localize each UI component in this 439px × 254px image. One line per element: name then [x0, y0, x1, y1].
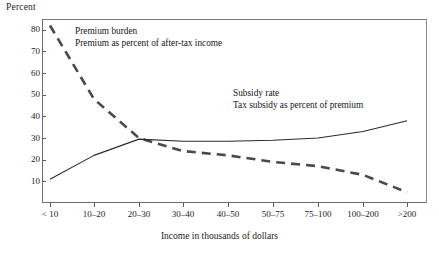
x-axis-tick-label: < 10: [42, 209, 58, 219]
y-axis-tick-mark: [42, 51, 46, 52]
y-axis-tick-label: 60: [16, 69, 40, 78]
x-axis-tick-label: 10–20: [83, 209, 106, 219]
y-axis-tick-mark: [42, 160, 46, 161]
x-axis-tick-label: >200: [398, 209, 417, 219]
x-axis-tick-label: 30–40: [172, 209, 195, 219]
y-axis-tick-mark: [42, 30, 46, 31]
x-axis-tick-mark: [363, 203, 364, 207]
x-axis-tick-mark: [273, 203, 274, 207]
annotation-subsidy-rate-title: Subsidy rate: [233, 88, 363, 100]
y-axis-tick-label: 80: [16, 25, 40, 34]
chart-container: Percent 1020304050607080 < 1010–2020–303…: [0, 0, 439, 254]
x-axis-tick-label: 75–100: [305, 209, 332, 219]
y-axis-tick-mark: [42, 73, 46, 74]
x-axis-tick-mark: [228, 203, 229, 207]
x-axis-title: Income in thousands of dollars: [0, 231, 439, 241]
y-axis-tick-label: 20: [16, 155, 40, 164]
x-axis-tick-mark: [50, 203, 51, 207]
x-axis-tick-mark: [407, 203, 408, 207]
annotation-subsidy-rate: Subsidy rate Tax subsidy as percent of p…: [233, 88, 363, 111]
y-axis-tick-label: 40: [16, 112, 40, 121]
x-axis-tick-label: 50–75: [262, 209, 285, 219]
y-axis-tick-label: 10: [16, 177, 40, 186]
y-axis-tick-labels: 1020304050607080: [10, 19, 40, 203]
annotation-subsidy-rate-subtitle: Tax subsidy as percent of premium: [233, 100, 363, 112]
y-axis-tick-label: 50: [16, 90, 40, 99]
x-axis-tick-label: 100–200: [347, 209, 379, 219]
x-axis-tick-mark: [318, 203, 319, 207]
y-axis-tick-mark: [42, 95, 46, 96]
annotation-premium-burden-subtitle: Premium as percent of after-tax income: [75, 38, 222, 50]
y-axis-tick-mark: [42, 138, 46, 139]
y-axis-tick-label: 70: [16, 47, 40, 56]
y-axis-tick-mark: [42, 181, 46, 182]
annotation-premium-burden: Premium burden Premium as percent of aft…: [75, 26, 222, 49]
x-axis-tick-label: 20–30: [128, 209, 151, 219]
x-axis-tick-mark: [183, 203, 184, 207]
x-axis-tick-mark: [94, 203, 95, 207]
y-axis-title: Percent: [6, 2, 36, 12]
x-axis-tick-label: 40–50: [217, 209, 240, 219]
annotation-premium-burden-title: Premium burden: [75, 26, 222, 38]
y-axis-tick-label: 30: [16, 134, 40, 143]
x-axis-tick-mark: [139, 203, 140, 207]
y-axis-tick-mark: [42, 116, 46, 117]
